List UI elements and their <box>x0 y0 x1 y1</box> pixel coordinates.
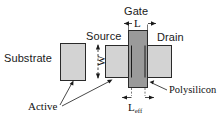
drain-rect <box>145 46 172 78</box>
label-substrate: Substrate <box>4 53 52 64</box>
label-dimension-leff: Leff <box>128 102 142 115</box>
label-dimension-w: W <box>96 56 107 66</box>
active-leader-lines <box>60 80 113 107</box>
dimension-leff <box>122 88 154 100</box>
mosfet-layout-diagram: Substrate Source Gate Drain Active Polys… <box>0 0 221 118</box>
polysilicon-leader-line <box>150 80 168 90</box>
label-active: Active <box>28 101 57 112</box>
substrate-rect <box>61 44 86 81</box>
label-dimension-l: L <box>134 18 141 29</box>
label-drain: Drain <box>157 32 184 43</box>
leff-subscript: eff <box>135 107 142 114</box>
label-polysilicon: Polysilicon <box>169 85 216 96</box>
label-gate: Gate <box>124 6 148 17</box>
label-source: Source <box>86 31 121 42</box>
leff-base: L <box>128 101 135 113</box>
